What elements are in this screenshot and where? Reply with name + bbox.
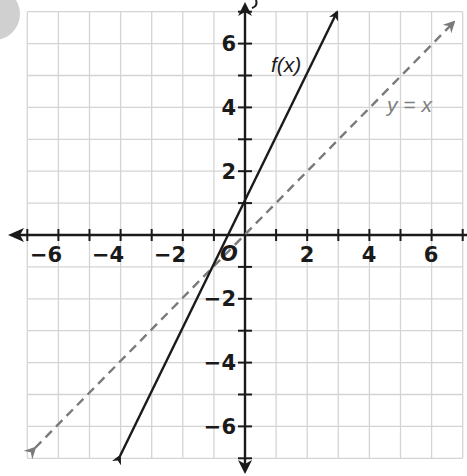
origin-label: O bbox=[220, 242, 238, 266]
coordinate-plane: −6 −4 −2 2 4 6 6 4 2 −2 −4 −6 O f(x) y =… bbox=[0, 0, 467, 476]
corner-decoration bbox=[0, 0, 20, 40]
y-tick-label: 2 bbox=[221, 160, 236, 184]
y-tick-label: −6 bbox=[204, 415, 236, 439]
x-tick-label: 2 bbox=[300, 243, 315, 267]
x-tick-label: −6 bbox=[30, 243, 62, 267]
x-tick-label: −2 bbox=[154, 243, 186, 267]
y-tick-label: 4 bbox=[221, 96, 236, 120]
identity-label: y = x bbox=[385, 93, 433, 116]
x-tick-label: 4 bbox=[362, 243, 377, 267]
y-tick-label: −4 bbox=[204, 351, 236, 375]
y-tick-label: 6 bbox=[221, 32, 236, 56]
x-tick-label: 6 bbox=[424, 243, 439, 267]
y-axis-label-partial bbox=[252, 0, 257, 8]
y-axis bbox=[238, 0, 257, 474]
x-axis bbox=[8, 228, 467, 242]
function-label: f(x) bbox=[271, 53, 301, 76]
y-tick-label: −2 bbox=[204, 287, 236, 311]
x-tick-label: −4 bbox=[92, 243, 124, 267]
